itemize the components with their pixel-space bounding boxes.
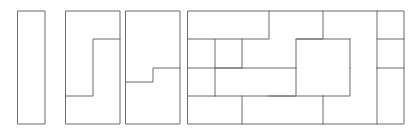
polyomino-dissection-figure bbox=[0, 0, 418, 135]
panel-bar-outline bbox=[18, 11, 45, 124]
panel-c-shape bbox=[66, 11, 120, 124]
figure-root bbox=[0, 0, 418, 135]
panel-bar bbox=[18, 11, 45, 124]
panel-s-shape bbox=[126, 11, 180, 124]
panel-tiling bbox=[188, 11, 404, 124]
